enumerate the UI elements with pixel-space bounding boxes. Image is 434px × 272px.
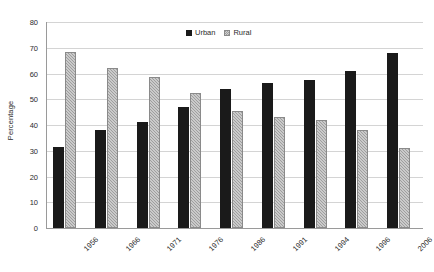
- bar-urban-1996: [345, 71, 356, 228]
- bar-group: [172, 22, 214, 228]
- plot-area: [46, 22, 423, 229]
- bar-group: [298, 22, 340, 228]
- bar-rural-1956: [65, 52, 76, 228]
- bars-layer: [47, 22, 423, 228]
- x-tick-label: 1971: [165, 235, 183, 253]
- bar-urban-1994: [304, 80, 315, 228]
- y-tick-label: 40: [14, 121, 38, 130]
- bar-group: [339, 22, 381, 228]
- y-tick-label: 80: [14, 18, 38, 27]
- bar-urban-1986: [220, 89, 231, 228]
- x-axis-ticks: 195619661971197619861991199419962006: [46, 229, 422, 272]
- y-tick-label: 20: [14, 172, 38, 181]
- x-tick-label: 1991: [291, 235, 309, 253]
- bar-rural-1994: [316, 120, 327, 228]
- x-tick-label: 1986: [249, 235, 267, 253]
- bar-urban-1971: [137, 122, 148, 228]
- bar-rural-1991: [274, 117, 285, 228]
- x-tick-label: 1966: [124, 235, 142, 253]
- bar-urban-1976: [178, 107, 189, 228]
- legend-swatch-rural-icon: [224, 30, 230, 36]
- bar-urban-1966: [95, 130, 106, 228]
- y-tick-label: 60: [14, 69, 38, 78]
- bar-group: [381, 22, 423, 228]
- x-tick-label: 1976: [207, 235, 225, 253]
- y-tick-label: 70: [14, 43, 38, 52]
- bar-rural-1986: [232, 111, 243, 228]
- bar-rural-1966: [107, 68, 118, 228]
- bar-rural-1971: [149, 77, 160, 228]
- bar-rural-2006: [399, 148, 410, 228]
- bar-urban-1991: [262, 83, 273, 228]
- x-tick-label: 1994: [332, 235, 350, 253]
- bar-group: [256, 22, 298, 228]
- legend-item-urban: Urban: [186, 28, 215, 37]
- bar-urban-1956: [53, 147, 64, 228]
- y-tick-label: 50: [14, 95, 38, 104]
- x-tick-label: 2006: [416, 235, 434, 253]
- legend-item-rural: Rural: [224, 28, 251, 37]
- bar-group: [89, 22, 131, 228]
- bar-group: [214, 22, 256, 228]
- legend-label-rural: Rural: [233, 28, 251, 37]
- x-tick-label: 1956: [82, 235, 100, 253]
- chart-legend: Urban Rural: [186, 28, 251, 37]
- y-tick-label: 0: [14, 224, 38, 233]
- y-tick-label: 30: [14, 146, 38, 155]
- y-tick-label: 10: [14, 198, 38, 207]
- y-axis-title: Percentage: [0, 0, 22, 240]
- bar-group: [47, 22, 89, 228]
- legend-label-urban: Urban: [195, 28, 215, 37]
- bar-urban-2006: [387, 53, 398, 228]
- bar-group: [131, 22, 173, 228]
- bar-rural-1976: [190, 93, 201, 228]
- x-tick-label: 1996: [374, 235, 392, 253]
- legend-swatch-urban-icon: [186, 30, 192, 36]
- bar-rural-1996: [357, 130, 368, 228]
- y-axis-title-text: Percentage: [7, 100, 16, 139]
